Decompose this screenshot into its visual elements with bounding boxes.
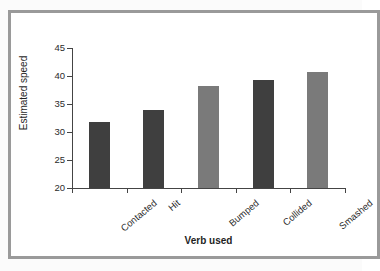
x-axis-category-label: Hit — [167, 198, 182, 213]
bar — [253, 80, 274, 188]
bar — [89, 122, 110, 188]
x-axis-category-label: Collided — [281, 198, 313, 227]
x-axis-title: Verb used — [72, 236, 345, 246]
x-axis-tick — [127, 188, 128, 193]
x-axis-category-label: Bumped — [227, 198, 260, 228]
x-axis-tick — [290, 188, 291, 193]
x-axis-line — [72, 188, 345, 189]
bar — [307, 72, 328, 188]
x-axis-tick — [72, 188, 73, 193]
bars-layer — [0, 48, 362, 188]
bar — [143, 110, 164, 188]
x-axis-tick — [236, 188, 237, 193]
bar — [198, 86, 219, 188]
x-axis-tick — [181, 188, 182, 193]
x-axis-category-label: Contacted — [119, 198, 158, 233]
x-axis-tick — [345, 188, 346, 193]
